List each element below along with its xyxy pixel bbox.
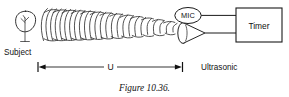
distance-symbol-label: U bbox=[107, 62, 113, 72]
figure-caption: Figure 10.36. bbox=[118, 83, 170, 93]
microphone: MIC bbox=[175, 8, 201, 24]
timer-unit: Timer bbox=[236, 8, 282, 42]
mic-label: MIC bbox=[181, 11, 196, 20]
ultrasonic-transducer-horn bbox=[178, 23, 205, 44]
dimension-arrow-left bbox=[39, 64, 46, 69]
ultrasonic-wavefronts bbox=[41, 9, 177, 41]
figure-container: MIC Timer Subject bbox=[0, 0, 289, 97]
figure-10-36-diagram: MIC Timer Subject bbox=[0, 0, 289, 97]
dimension-arrow-right bbox=[175, 64, 182, 69]
ultrasonic-label: Ultrasonic bbox=[201, 63, 237, 72]
timer-label: Timer bbox=[248, 21, 269, 31]
timer-leads bbox=[201, 15, 236, 33]
subject-figure bbox=[16, 11, 36, 41]
distance-dimension-line: U bbox=[38, 62, 183, 72]
subject-label: Subject bbox=[4, 48, 32, 57]
